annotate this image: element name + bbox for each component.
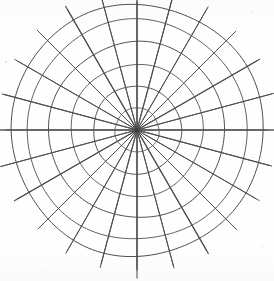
origin-point <box>135 128 139 132</box>
polar-grid-canvas <box>0 0 274 281</box>
polar-grid-figure <box>0 0 274 281</box>
